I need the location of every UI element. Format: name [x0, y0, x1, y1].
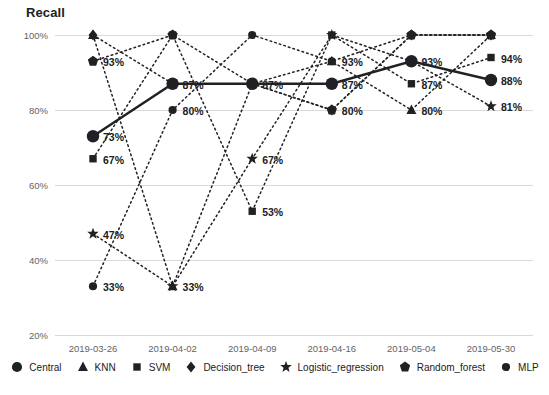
- series-layer: [55, 35, 533, 335]
- data-point-marker: [326, 78, 338, 90]
- data-point-label: 67%: [262, 154, 283, 166]
- data-point-marker: [408, 80, 415, 87]
- x-tick-label: 2019-05-30: [467, 343, 516, 354]
- legend-item-central[interactable]: Central: [10, 360, 61, 374]
- x-tick-label: 2019-04-09: [228, 343, 277, 354]
- plot-area: 20%40%60%80%100% 2019-03-262019-04-02201…: [55, 35, 533, 335]
- y-tick-label: 100%: [24, 30, 48, 41]
- y-tick-label: 80%: [29, 105, 48, 116]
- data-point-label: 53%: [262, 206, 283, 218]
- data-point-marker: [88, 56, 98, 66]
- legend-item-mlp[interactable]: MLP: [499, 360, 539, 374]
- data-point-marker: [327, 105, 337, 115]
- legend-item-svm[interactable]: SVM: [130, 360, 171, 374]
- legend-label: Decision_tree: [203, 362, 264, 373]
- series-knn: [88, 30, 496, 291]
- legend-item-logistic_regression[interactable]: Logistic_regression: [279, 360, 384, 374]
- square-icon: [130, 360, 144, 374]
- data-point-label: 93%: [342, 56, 363, 68]
- data-point-label: 93%: [103, 56, 124, 68]
- y-tick-label: 40%: [29, 255, 48, 266]
- triangle-icon: [76, 360, 90, 374]
- y-tick-label: 60%: [29, 180, 48, 191]
- data-point-label: 80%: [183, 105, 204, 117]
- data-point-marker: [487, 54, 494, 61]
- data-point-label: 33%: [183, 281, 204, 293]
- data-point-label: 80%: [421, 105, 442, 117]
- data-point-label: 67%: [103, 154, 124, 166]
- y-tick-label: 20%: [29, 330, 48, 341]
- data-point-marker: [328, 57, 336, 65]
- legend-label: MLP: [518, 362, 539, 373]
- data-point-marker: [485, 74, 497, 86]
- diamond-icon: [184, 360, 198, 374]
- chart-title: Recall: [26, 5, 65, 20]
- data-point-marker: [89, 155, 96, 162]
- series-logistic_regression: [87, 29, 497, 291]
- data-point-label: 81%: [501, 101, 522, 113]
- data-point-label: 87%: [262, 79, 283, 91]
- data-point-marker: [485, 100, 497, 111]
- data-point-marker: [246, 153, 258, 164]
- data-point-marker: [249, 208, 256, 215]
- x-tick-label: 2019-05-04: [387, 343, 436, 354]
- legend-item-decision_tree[interactable]: Decision_tree: [184, 360, 264, 374]
- data-point-label: 33%: [103, 281, 124, 293]
- data-point-label: 87%: [421, 79, 442, 91]
- recall-line-chart: Recall 20%40%60%80%100% 2019-03-262019-0…: [0, 0, 549, 395]
- data-point-marker: [87, 130, 99, 142]
- legend-label: Random_forest: [417, 362, 485, 373]
- data-point-label: 73%: [103, 131, 124, 143]
- data-point-label: 93%: [421, 56, 442, 68]
- x-tick-label: 2019-04-16: [307, 343, 356, 354]
- data-point-label: 87%: [183, 79, 204, 91]
- legend-item-random_forest[interactable]: Random_forest: [398, 360, 485, 374]
- star-icon: [279, 360, 293, 374]
- legend-label: Logistic_regression: [298, 362, 384, 373]
- gridline: [55, 335, 533, 336]
- data-point-label: 87%: [342, 79, 363, 91]
- legend-label: Central: [29, 362, 61, 373]
- data-point-label: 80%: [342, 105, 363, 117]
- data-point-marker: [407, 31, 415, 39]
- data-point-label: 88%: [501, 75, 522, 87]
- legend-label: SVM: [149, 362, 171, 373]
- series-line: [93, 35, 491, 286]
- data-point-marker: [487, 31, 495, 39]
- x-tick-label: 2019-04-02: [148, 343, 197, 354]
- circle-icon: [10, 360, 24, 374]
- data-point-marker: [89, 282, 97, 290]
- legend-item-knn[interactable]: KNN: [76, 360, 116, 374]
- circle-small-icon: [499, 360, 513, 374]
- chart-legend: CentralKNNSVMDecision_treeLogistic_regre…: [0, 360, 549, 374]
- data-point-marker: [169, 106, 177, 114]
- data-point-label: 94%: [501, 53, 522, 65]
- data-point-label: 47%: [103, 229, 124, 241]
- x-tick-label: 2019-03-26: [69, 343, 118, 354]
- pentagon-icon: [398, 360, 412, 374]
- legend-label: KNN: [95, 362, 116, 373]
- data-point-marker: [167, 30, 177, 40]
- data-point-marker: [248, 31, 256, 39]
